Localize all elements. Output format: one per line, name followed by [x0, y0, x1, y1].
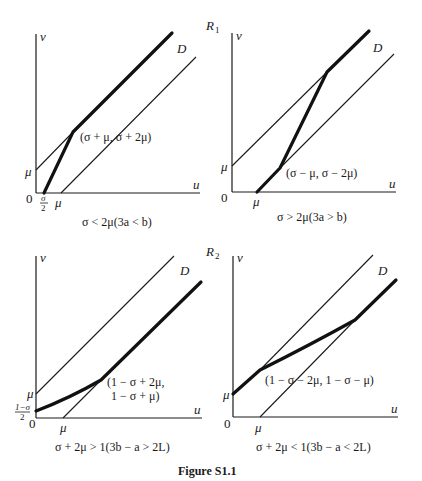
condition-caption: σ > 2μ(3a > b): [277, 210, 347, 224]
intersection-point-label: (1 − σ − 2μ, 1 − σ − μ): [265, 373, 374, 387]
condition-caption: σ + 2μ < 1(3b − a < 2L): [256, 440, 371, 454]
best-response-path: [44, 33, 172, 193]
figure-s1-1: R 1 R 2 v u 0 μ σ 2 μ D (σ + μ, σ + 2μ) …: [0, 0, 422, 481]
intersection-point-label-line2: 1 − σ + μ): [111, 389, 159, 403]
x-tick-mu: μ: [59, 420, 67, 435]
origin-label: 0: [26, 191, 33, 206]
intersection-point-label: (σ − μ, σ − 2μ): [286, 166, 357, 180]
x-tick-mu: μ: [254, 420, 262, 435]
x-axis-label: u: [389, 176, 396, 191]
y-tick-mu: μ: [222, 387, 230, 402]
panel-bottom-left: v u 0 μ 1−σ 2 μ D (1 − σ + 2μ, 1 − σ + μ…: [15, 250, 202, 454]
x-tick-sigma-half: σ 2: [40, 193, 48, 213]
intersection-point-label-line1: (1 − σ + 2μ,: [107, 375, 164, 389]
curve-label-d: D: [176, 41, 187, 56]
y-tick-mu: μ: [26, 386, 34, 401]
lower-boundary-line: [260, 320, 355, 417]
x-tick-mu: μ: [252, 194, 260, 209]
y-axis-label: v: [237, 250, 243, 265]
figure-caption: Figure S1.1: [178, 464, 236, 478]
intersection-point-label: (σ + μ, σ + 2μ): [80, 130, 151, 144]
upper-boundary-line: [232, 72, 327, 166]
origin-label: 0: [224, 416, 231, 431]
svg-text:1−σ: 1−σ: [15, 402, 31, 412]
upper-boundary-line: [260, 255, 373, 370]
svg-text:R: R: [205, 244, 214, 259]
x-axis-label: u: [391, 401, 398, 416]
y-tick-mu: μ: [220, 159, 228, 174]
y-tick-mu: μ: [24, 164, 32, 179]
curve-label-d: D: [179, 263, 190, 278]
svg-text:R: R: [205, 18, 214, 33]
condition-caption: σ < 2μ(3a < b): [82, 215, 152, 229]
y-axis-label: v: [40, 250, 46, 265]
x-axis-label: u: [193, 177, 200, 192]
x-tick-mu: μ: [54, 195, 62, 210]
panel-bottom-right: v u 0 μ μ D (1 − σ − 2μ, 1 − σ − μ) σ + …: [222, 250, 398, 454]
y-axis-label: v: [236, 28, 242, 43]
curve-label-d: D: [377, 263, 388, 278]
lower-boundary-line: [63, 380, 101, 418]
condition-caption: σ + 2μ > 1(3b − a > 2L): [55, 440, 170, 454]
svg-text:1: 1: [215, 25, 220, 35]
panel-top-right: v u 0 μ μ D (σ − μ, σ − 2μ) σ > 2μ(3a > …: [220, 28, 396, 224]
lower-boundary-line: [280, 54, 394, 168]
y-axis-label: v: [40, 29, 46, 44]
svg-text:2: 2: [20, 412, 25, 422]
origin-label: 0: [221, 190, 228, 205]
svg-text:2: 2: [41, 203, 46, 213]
svg-text:2: 2: [215, 251, 220, 261]
region-label-r1: R 1: [205, 18, 220, 35]
upper-boundary-line: [36, 132, 73, 170]
panel-top-left: v u 0 μ σ 2 μ D (σ + μ, σ + 2μ) σ < 2μ(3…: [24, 29, 200, 229]
region-label-r2: R 2: [205, 244, 220, 261]
curve-label-d: D: [372, 40, 383, 55]
upper-boundary-line: [36, 256, 174, 394]
x-axis-label: u: [194, 402, 201, 417]
origin-label: 0: [29, 416, 36, 431]
